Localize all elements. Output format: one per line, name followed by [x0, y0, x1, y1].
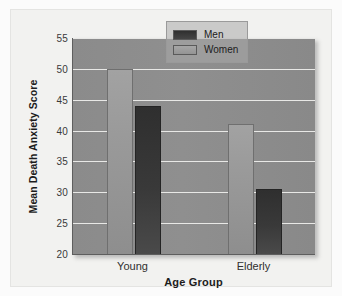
y-axis-tick-label: 50	[46, 63, 68, 74]
y-axis-tick-label: 20	[46, 249, 68, 260]
legend-label: Men	[204, 29, 223, 40]
y-axis-title: Mean Death Anxiety Score	[25, 38, 41, 255]
bar-elderly-women	[228, 124, 254, 254]
legend: MenWomen	[166, 21, 248, 63]
legend-swatch-men-icon	[173, 30, 197, 40]
legend-item: Men	[173, 27, 241, 42]
figure-container: Mean Death Anxiety Score 202530354045505…	[0, 0, 342, 296]
bar-young-women	[107, 69, 133, 254]
y-axis-tick-label: 40	[46, 125, 68, 136]
bar-young-men	[135, 106, 161, 254]
legend-item: Women	[173, 42, 241, 57]
legend-label: Women	[204, 44, 238, 55]
y-axis-tick-labels: 2025303540455055	[42, 38, 68, 255]
figure-inner-frame: Mean Death Anxiety Score 202530354045505…	[10, 9, 332, 287]
bar-elderly-men	[256, 189, 282, 254]
x-axis-tick-labels: YoungElderly	[72, 260, 315, 276]
x-axis-tick-label: Young	[117, 260, 148, 272]
y-axis-tick-label: 30	[46, 187, 68, 198]
x-axis-title: Age Group	[72, 276, 315, 288]
legend-swatch-women-icon	[173, 45, 197, 55]
plot-area	[72, 38, 315, 255]
y-axis-tick-label: 35	[46, 156, 68, 167]
y-axis-tick-label: 25	[46, 218, 68, 229]
y-axis-tick-label: 55	[46, 33, 68, 44]
x-axis-tick-label: Elderly	[237, 260, 271, 272]
y-axis-tick-label: 45	[46, 94, 68, 105]
